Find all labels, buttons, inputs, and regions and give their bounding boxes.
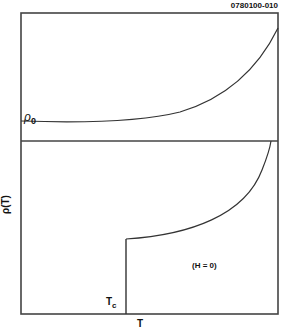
rho-subscript: 0 (31, 116, 36, 126)
normal-resistivity-curve (21, 28, 278, 122)
h-zero-label: (H = 0) (192, 261, 217, 270)
tc-label: Tc (106, 296, 117, 310)
rho-symbol: ρ (24, 110, 31, 124)
c-subscript: c (112, 301, 116, 310)
superconducting-resistivity-curve (126, 141, 271, 239)
rho0-label: ρ0 (24, 110, 36, 126)
y-axis-label: ρ(T) (0, 195, 11, 214)
plot-frame (21, 13, 278, 314)
x-axis-label: T (137, 318, 143, 329)
resistivity-diagram (0, 0, 282, 331)
